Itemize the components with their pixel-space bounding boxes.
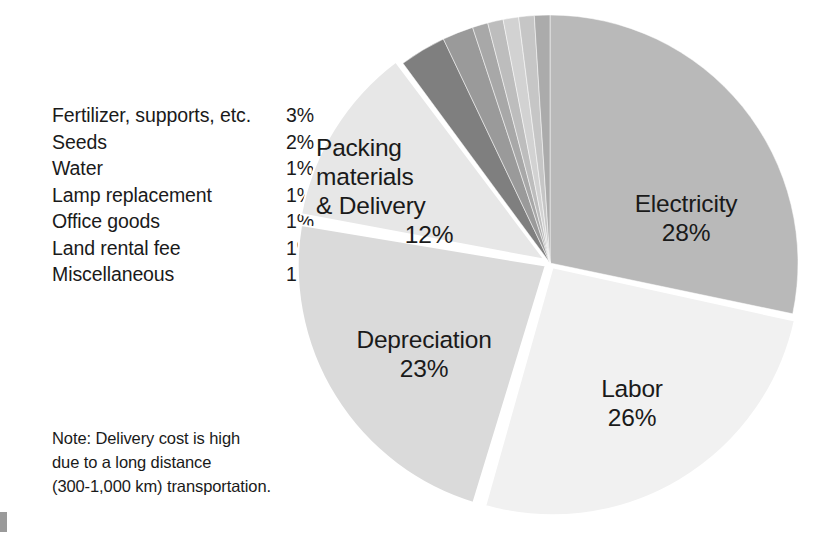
pie-slice[interactable]: [550, 15, 798, 314]
legend-row: Water 1%: [52, 157, 314, 184]
pie-svg: [290, 0, 830, 549]
legend: Fertilizer, supports, etc. 3% Seeds 2% W…: [52, 104, 314, 290]
legend-label: Water: [52, 157, 103, 180]
legend-label: Land rental fee: [52, 237, 181, 260]
pie-chart: Electricity 28% Packing materials & Deli…: [290, 0, 830, 549]
legend-label: Miscellaneous: [52, 263, 174, 286]
legend-row: Fertilizer, supports, etc. 3%: [52, 104, 314, 131]
legend-row: Miscellaneous 1%: [52, 263, 314, 290]
legend-label: Lamp replacement: [52, 184, 212, 207]
legend-row: Lamp replacement 1%: [52, 184, 314, 211]
legend-row: Office goods 1%: [52, 210, 314, 237]
legend-row: Seeds 2%: [52, 131, 314, 158]
page-edge-artifact: [0, 512, 7, 532]
legend-row: Land rental fee 1%: [52, 237, 314, 264]
chart-canvas: Fertilizer, supports, etc. 3% Seeds 2% W…: [0, 0, 837, 549]
legend-label: Seeds: [52, 131, 107, 154]
legend-label: Office goods: [52, 210, 160, 233]
legend-label: Fertilizer, supports, etc.: [52, 104, 251, 127]
